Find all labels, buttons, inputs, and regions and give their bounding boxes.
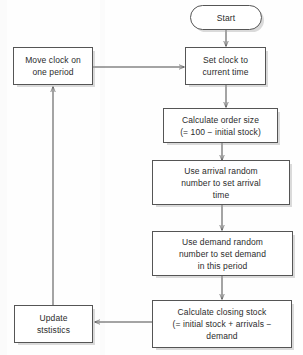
node-set-clock-label: Set clock to current time [199, 54, 251, 78]
node-move-clock[interactable]: Move clock on one period [13, 47, 93, 85]
node-start[interactable]: Start [190, 5, 262, 30]
node-calculate-order-size-label: Calculate order size (= 100 − initial st… [177, 114, 264, 138]
flowchart-canvas: Start Move clock on one period Set clock… [0, 0, 303, 355]
node-calculate-closing-stock[interactable]: Calculate closing stock (= initial stock… [152, 300, 292, 348]
node-demand-random-number-label: Use demand random number to set demand i… [176, 236, 269, 272]
node-update-statistics[interactable]: Update ststistics [14, 305, 93, 343]
node-start-label: Start [214, 12, 238, 24]
node-calculate-closing-stock-label: Calculate closing stock (= initial stock… [169, 306, 274, 342]
node-arrival-random-number[interactable]: Use arrival random number to set arrival… [152, 160, 290, 205]
node-demand-random-number[interactable]: Use demand random number to set demand i… [152, 231, 293, 276]
node-set-clock[interactable]: Set clock to current time [185, 47, 266, 85]
node-calculate-order-size[interactable]: Calculate order size (= 100 − initial st… [163, 108, 278, 143]
node-update-statistics-label: Update ststistics [34, 312, 73, 336]
node-arrival-random-number-label: Use arrival random number to set arrival… [178, 165, 264, 201]
node-move-clock-label: Move clock on one period [22, 54, 84, 78]
